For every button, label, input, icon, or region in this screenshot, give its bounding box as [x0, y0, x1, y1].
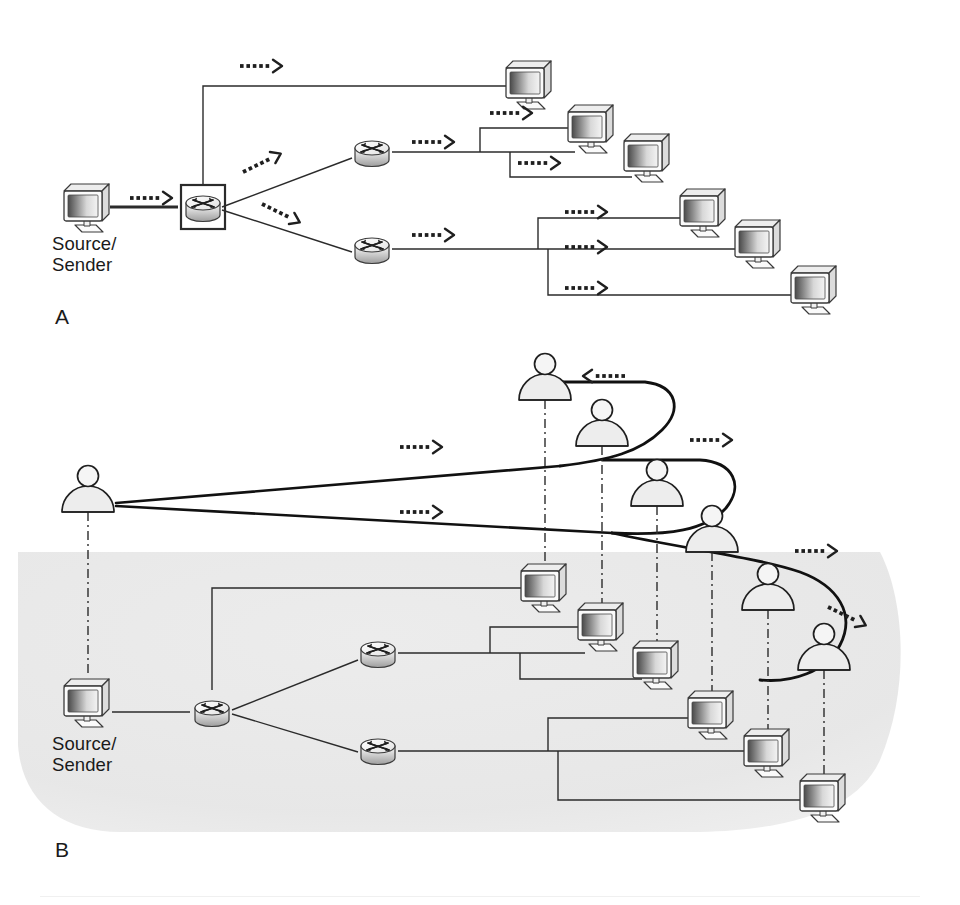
boxed-router	[181, 185, 225, 229]
receiver-b3	[633, 641, 678, 689]
flow-arrow-top-branch	[240, 60, 282, 72]
panel-label-a: A	[55, 305, 69, 329]
source-sender-label-b: Source/ Sender	[52, 733, 116, 775]
router-lower	[355, 238, 389, 264]
router-upper	[355, 141, 389, 167]
figure-canvas: Source/ Sender A Source/ Sender B	[0, 0, 960, 905]
flow-arrow-return-1	[583, 370, 625, 382]
flow-arrow-r2-branch2	[565, 241, 607, 253]
source-label-line1: Source/	[52, 233, 116, 254]
flow-arrow-r2-branch1	[565, 206, 607, 218]
flow-arrow-upper-fan	[400, 441, 442, 453]
flow-arrow-r1-branch3	[518, 157, 560, 169]
source-sender-label-a: Source/ Sender	[52, 233, 116, 275]
user-1	[519, 354, 571, 401]
receiver-a2	[568, 105, 613, 153]
user-6	[798, 624, 850, 671]
receiver-b4	[688, 691, 733, 739]
source-label-line1: Source/	[52, 733, 116, 754]
router-lower	[361, 739, 395, 765]
flow-arrow-r2-out	[412, 229, 454, 241]
scan-artifact-line	[40, 896, 920, 897]
receiver-a5	[735, 220, 780, 268]
panel-label-b: B	[55, 838, 69, 862]
flow-arrow-return-3	[795, 545, 837, 557]
user-2	[576, 400, 628, 447]
user-3	[631, 460, 683, 507]
flow-arrow-r1-branch2	[490, 107, 532, 119]
receiver-a4	[680, 189, 725, 237]
receiver-a3	[624, 134, 669, 182]
flow-arrow-lower-fan	[400, 506, 442, 518]
source-label-line2: Sender	[52, 254, 112, 275]
flow-arrow-up-diagonal	[240, 148, 283, 178]
receiver-b2	[578, 603, 623, 651]
receiver-b6	[800, 774, 845, 822]
source-computer	[64, 184, 109, 232]
router-ingress	[195, 701, 229, 727]
receiver-b1	[521, 564, 566, 612]
user-4	[686, 506, 738, 553]
user-5	[742, 564, 794, 611]
icon-layer	[0, 0, 960, 905]
receiver-a1	[506, 61, 551, 109]
user-origin	[62, 466, 114, 513]
receiver-a6	[791, 266, 836, 314]
flow-arrow-r2-branch3	[565, 282, 607, 294]
source-computer	[64, 679, 109, 727]
flow-arrow-r1-out	[412, 136, 454, 148]
router-upper	[361, 642, 395, 668]
flow-arrow-source	[130, 192, 172, 204]
source-label-line2: Sender	[52, 754, 112, 775]
flow-arrow-down-diagonal	[259, 198, 302, 228]
flow-arrow-return-2	[690, 434, 732, 446]
receiver-b5	[744, 729, 789, 777]
